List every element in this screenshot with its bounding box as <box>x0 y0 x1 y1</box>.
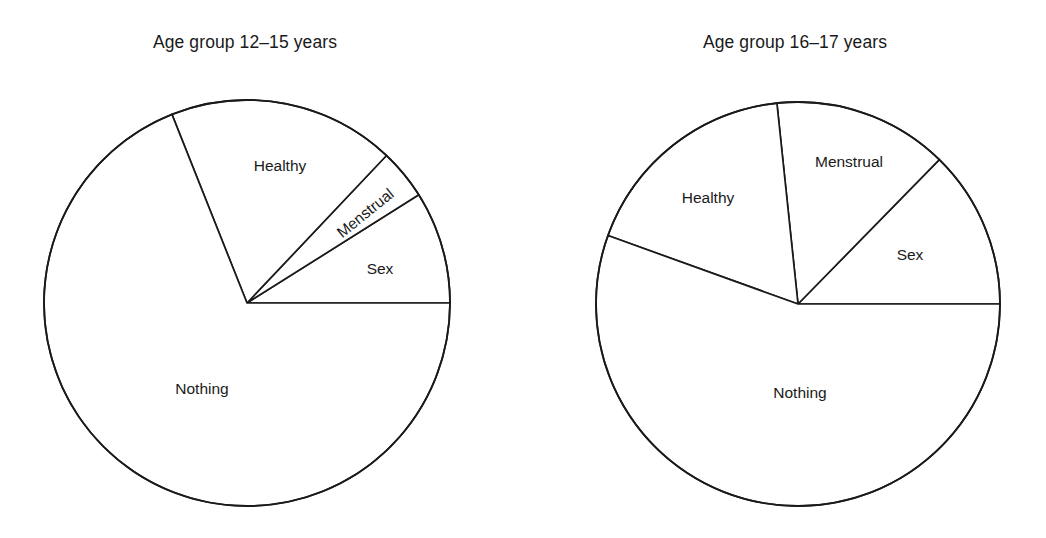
pie-slice-label-sex: Sex <box>897 246 924 263</box>
pie-title-age-12-15: Age group 12–15 years <box>153 32 337 52</box>
pie-slice-label-sex: Sex <box>367 260 394 277</box>
pie-slice-label-nothing: Nothing <box>773 384 826 401</box>
pie-slice-label-menstrual: Menstrual <box>815 153 883 170</box>
figure-canvas: Age group 12–15 years SexMenstrualHealth… <box>0 0 1046 538</box>
pie-slice-label-nothing: Nothing <box>175 380 228 397</box>
pie-slices-age-16-17 <box>596 102 1000 506</box>
pie-slice-label-healthy: Healthy <box>254 157 307 174</box>
pie-title-age-16-17: Age group 16–17 years <box>703 32 887 52</box>
pie-chart-figure: Age group 12–15 years SexMenstrualHealth… <box>0 0 1046 538</box>
pie-slice-label-healthy: Healthy <box>682 189 735 206</box>
pie-slices-age-12-15 <box>44 100 450 506</box>
